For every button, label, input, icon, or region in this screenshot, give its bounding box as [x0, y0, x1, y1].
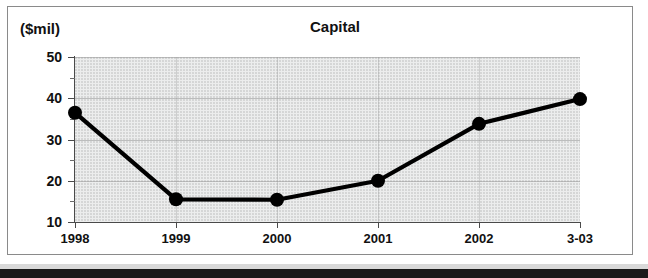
data-point-marker: 3-03: 39.8	[573, 92, 587, 106]
data-point-marker: 1999: 15.5	[169, 192, 183, 206]
data-series-capital: 1998: 36.51999: 15.52000: 15.42001: 2020…	[0, 0, 648, 278]
chart-figure: ($mil) Capital 1020304050 19981999200020…	[0, 0, 648, 278]
data-point-marker: 2000: 15.4	[270, 193, 284, 207]
data-point-marker: 2002: 33.8	[472, 117, 486, 131]
data-point-marker: 2001: 20	[371, 174, 385, 188]
scan-edge-dark	[0, 269, 648, 278]
data-point-marker: 1998: 36.5	[68, 106, 82, 120]
series-line	[75, 99, 580, 200]
